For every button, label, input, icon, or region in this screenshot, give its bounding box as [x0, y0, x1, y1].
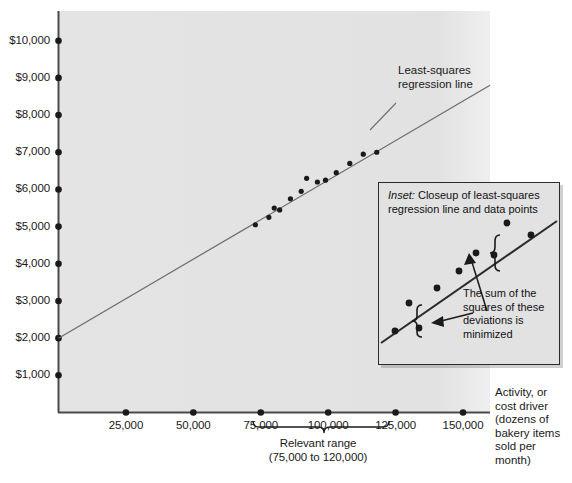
inset-note-text: The sum of the squares of these deviatio…: [463, 287, 559, 341]
y-axis-tick-label: $1,000: [0, 368, 50, 380]
y-axis-tick-label: $6,000: [0, 182, 50, 194]
relevant-range-sublabel: (75,000 to 120,000): [241, 451, 395, 463]
data-point: [334, 170, 339, 175]
y-axis-tick-label: $8,000: [0, 108, 50, 120]
chart-figure: $1,000$2,000$3,000$4,000$5,000$6,000$7,0…: [0, 0, 572, 483]
y-axis-tick-marker: [55, 186, 62, 193]
y-axis-tick-label: $3,000: [0, 294, 50, 306]
y-axis-tick-marker: [55, 75, 62, 82]
data-point: [347, 161, 352, 166]
y-axis-tick-label: $5,000: [0, 220, 50, 232]
y-axis-tick-label: $9,000: [0, 71, 50, 83]
inset-panel: Inset: Closeup of least-squares regressi…: [378, 182, 560, 365]
y-axis-tick-marker: [55, 223, 62, 230]
data-point: [323, 178, 328, 183]
y-axis-tick-marker: [55, 112, 62, 119]
data-point: [288, 196, 293, 201]
data-point: [315, 179, 320, 184]
inset-data-point: [392, 328, 399, 335]
y-axis-tick-marker: [55, 372, 62, 379]
x-axis-tick-marker: [392, 409, 399, 416]
data-point: [253, 222, 258, 227]
data-point: [266, 215, 271, 220]
relevant-range-label: Relevant range: [241, 437, 395, 449]
y-axis-tick-label: $10,000: [0, 34, 50, 46]
x-axis-tick-marker: [257, 409, 264, 416]
x-axis-tick-marker: [325, 409, 332, 416]
inset-lower-deviation-brace: [412, 305, 422, 337]
inset-data-point: [473, 250, 480, 257]
regression-line-label: Least-squares regression line: [398, 64, 510, 91]
inset-lower-arrow-head: [431, 316, 444, 327]
y-axis-tick-marker: [55, 260, 62, 267]
inset-data-point: [528, 232, 535, 239]
x-axis-tick-label: 100,000: [293, 419, 363, 431]
y-axis-tick-label: $2,000: [0, 331, 50, 343]
inset-data-point: [434, 285, 441, 292]
inset-data-point: [456, 268, 463, 275]
x-axis-tick-marker: [460, 409, 467, 416]
x-axis-tick-label: 50,000: [158, 419, 228, 431]
inset-data-point: [504, 220, 511, 227]
data-point: [361, 152, 366, 157]
data-point: [277, 207, 282, 212]
x-axis-tick-marker: [190, 409, 197, 416]
y-axis-tick-label: $7,000: [0, 145, 50, 157]
x-axis-tick-marker: [123, 409, 130, 416]
x-axis-tick-label: 125,000: [361, 419, 431, 431]
y-axis-tick-label: $4,000: [0, 257, 50, 269]
x-axis-tick-label: 150,000: [428, 419, 498, 431]
x-axis-tick-label: 25,000: [91, 419, 161, 431]
data-point: [374, 150, 379, 155]
y-axis-tick-marker: [55, 149, 62, 156]
data-point: [272, 205, 277, 210]
y-axis-tick-marker: [55, 37, 62, 44]
inset-data-point: [406, 300, 413, 307]
y-axis-tick-marker: [55, 298, 62, 305]
data-point: [304, 176, 309, 181]
y-axis-tick-marker: [55, 335, 62, 342]
x-axis-caption: Activity, or cost driver (dozens of bake…: [495, 386, 569, 467]
data-point: [299, 189, 304, 194]
x-axis-tick-label: 75,000: [226, 419, 296, 431]
